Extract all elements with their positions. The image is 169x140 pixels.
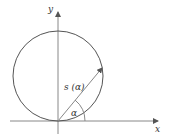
vector-s-alpha [58,68,102,121]
circle-diagram: y x s (α) α [0,0,169,140]
y-axis-label: y [47,4,54,14]
x-axis-label: x [155,124,160,134]
vector-label: s (α) [64,82,85,92]
angle-label: α [71,108,77,118]
